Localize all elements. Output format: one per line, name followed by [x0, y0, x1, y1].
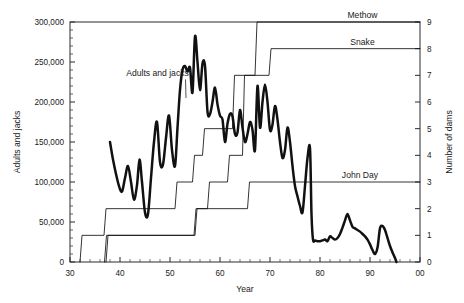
y-axis-tick-label: 0 [59, 258, 64, 267]
y2-axis-tick-label: 2 [427, 205, 432, 214]
y2-axis-tick-labels: 0123456789 [427, 18, 432, 267]
y-axis-tick-label: 50,000 [39, 218, 64, 227]
x-axis-tick-label: 40 [115, 269, 125, 278]
y2-axis-tick-label: 5 [427, 125, 432, 134]
y2-axis-tick-label: 1 [427, 231, 432, 240]
x-axis-tick-label: 00 [415, 269, 425, 278]
y-axis-tick-label: 300,000 [34, 18, 64, 27]
salmon-counts-and-dams-chart: 050,000100,000150,000200,000250,000300,0… [0, 0, 464, 303]
x-axis-tick-label: 80 [315, 269, 325, 278]
y2-axis-tick-label: 7 [427, 71, 432, 80]
series-label-methow: Methow [347, 10, 378, 20]
series-label-snake: Snake [350, 37, 375, 47]
y-axis-title: Adults and jacks [12, 111, 22, 174]
x-axis-tick-label: 70 [265, 269, 275, 278]
y2-axis-tick-label: 3 [427, 178, 432, 187]
series-label-john-day: John Day [342, 170, 379, 180]
y-axis-tick-label: 100,000 [34, 178, 64, 187]
x-axis-tick-labels: 3040506070809000 [65, 269, 425, 278]
x-axis-title: Year [236, 284, 254, 294]
y2-axis-tick-label: 9 [427, 18, 432, 27]
y2-axis-tick-label: 0 [427, 258, 432, 267]
y2-axis-tick-label: 6 [427, 98, 432, 107]
y-axis-tick-label: 250,000 [34, 58, 64, 67]
y2-axis-tick-label: 8 [427, 45, 432, 54]
x-axis-tick-label: 90 [365, 269, 375, 278]
annotation-label-adults-and-jacks: Adults and jacks [126, 68, 189, 78]
annotation-leader-line [186, 79, 187, 98]
y2-axis-tick-label: 4 [427, 151, 432, 160]
y-axis-tick-label: 150,000 [34, 138, 64, 147]
x-axis-tick-label: 60 [215, 269, 225, 278]
x-axis-tick-label: 30 [65, 269, 75, 278]
x-axis-tick-label: 50 [165, 269, 175, 278]
y2-axis-title: Number of dams [444, 110, 454, 174]
y-axis-tick-label: 200,000 [34, 98, 64, 107]
y-axis-tick-labels: 050,000100,000150,000200,000250,000300,0… [34, 18, 64, 267]
chart-container: 050,000100,000150,000200,000250,000300,0… [0, 0, 464, 303]
